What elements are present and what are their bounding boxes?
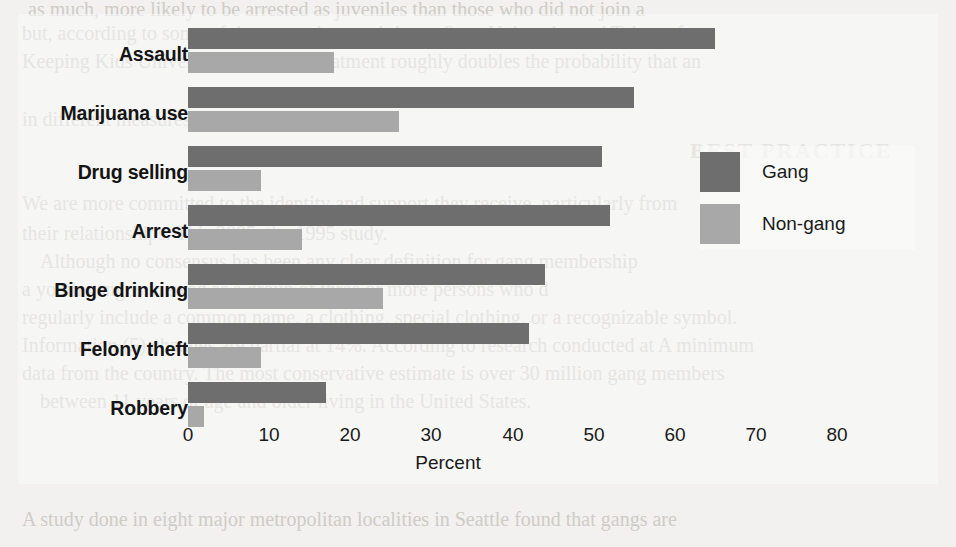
- bar-gang: [188, 264, 545, 285]
- x-tick-label: 80: [826, 424, 847, 446]
- bar-gang: [188, 28, 715, 49]
- legend-label: Non-gang: [762, 213, 845, 235]
- category-label: Binge drinking: [54, 279, 188, 302]
- bar-nongang: [188, 347, 261, 368]
- bar-gang: [188, 205, 610, 226]
- legend-item-gang: Gang: [700, 146, 915, 198]
- chart-legend: Gang Non-gang: [700, 146, 915, 250]
- legend-item-nongang: Non-gang: [700, 198, 915, 250]
- bar-group-assault: Assault: [0, 26, 956, 82]
- bar-nongang: [188, 52, 334, 73]
- category-label: Marijuana use: [61, 102, 188, 125]
- bar-gang: [188, 146, 602, 167]
- x-tick-label: 10: [258, 424, 279, 446]
- x-tick-label: 30: [420, 424, 441, 446]
- x-tick-label: 60: [664, 424, 685, 446]
- legend-swatch-gang-icon: [700, 152, 740, 192]
- category-label: Arrest: [132, 220, 188, 243]
- bar-nongang: [188, 170, 261, 191]
- bar-chart-figure: Assault Marijuana use Drug selling Arres…: [0, 0, 956, 547]
- bar-group-felony-theft: Felony theft: [0, 321, 956, 377]
- bar-gang: [188, 87, 634, 108]
- x-axis: 0 10 20 30 40 50 60 70 80 Percent: [0, 424, 956, 484]
- x-axis-title: Percent: [415, 452, 480, 474]
- category-label: Robbery: [110, 397, 188, 420]
- x-tick-label: 70: [745, 424, 766, 446]
- bar-nongang: [188, 111, 399, 132]
- x-tick-label: 20: [339, 424, 360, 446]
- bar-nongang: [188, 229, 302, 250]
- x-tick-label: 0: [183, 424, 194, 446]
- category-label: Assault: [119, 43, 188, 66]
- x-axis-title-wrap: Percent: [0, 452, 956, 474]
- x-tick-label: 40: [502, 424, 523, 446]
- category-label: Felony theft: [80, 338, 188, 361]
- x-tick-label: 50: [583, 424, 604, 446]
- category-label: Drug selling: [78, 161, 188, 184]
- bar-group-marijuana-use: Marijuana use: [0, 85, 956, 141]
- bar-group-binge-drinking: Binge drinking: [0, 262, 956, 318]
- legend-label: Gang: [762, 161, 808, 183]
- bar-gang: [188, 323, 529, 344]
- bar-nongang: [188, 288, 383, 309]
- legend-swatch-nongang-icon: [700, 204, 740, 244]
- bar-gang: [188, 382, 326, 403]
